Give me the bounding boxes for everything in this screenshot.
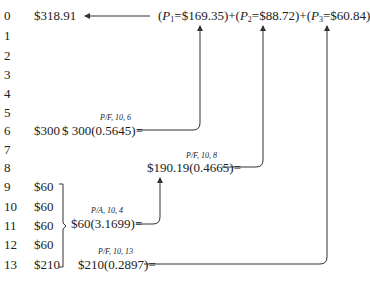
year-label: 10 bbox=[4, 200, 18, 214]
cash-flow: $60 bbox=[34, 219, 54, 233]
year-label: 4 bbox=[4, 87, 18, 101]
factor-label: P/F, 10, 8 bbox=[186, 151, 217, 160]
annuity-bracket bbox=[59, 184, 66, 267]
year-label: 6 bbox=[4, 124, 18, 138]
year-label: 8 bbox=[4, 161, 18, 175]
present-worth-result: $318.91 bbox=[34, 9, 76, 23]
factor-label: P/F, 10, 13 bbox=[98, 247, 133, 256]
year-label: 11 bbox=[4, 219, 18, 233]
year-label: 12 bbox=[4, 238, 18, 252]
equation: $60(3.1699)= bbox=[71, 217, 142, 231]
year-label: 7 bbox=[4, 143, 18, 157]
cash-flow: $60 bbox=[34, 200, 54, 214]
p2-arrow bbox=[222, 26, 263, 167]
equation: $210(0.2897)= bbox=[78, 258, 156, 272]
year-label: 5 bbox=[4, 106, 18, 120]
year-label: 13 bbox=[4, 258, 18, 272]
factor-label: P/F, 10, 6 bbox=[100, 113, 131, 122]
cash-flow: $60 bbox=[34, 180, 54, 194]
year-label: 2 bbox=[4, 49, 18, 63]
cash-flow: $300 bbox=[34, 124, 60, 138]
year-label: 9 bbox=[4, 180, 18, 194]
factor-label: P/A, 10, 4 bbox=[91, 206, 123, 215]
p3-arrow bbox=[144, 26, 327, 264]
year-label: 3 bbox=[4, 68, 18, 82]
cash-flow: $60 bbox=[34, 238, 54, 252]
year-label: 1 bbox=[4, 29, 18, 43]
p1-arrow bbox=[137, 26, 200, 130]
equation: $ 300(0.5645)= bbox=[62, 124, 143, 138]
year-label: 0 bbox=[4, 9, 18, 23]
cash-flow: $210 bbox=[34, 258, 60, 272]
equation: $190.19(0.4665)= bbox=[147, 161, 241, 175]
sum-expression: (P1=$169.35)+(P2=$88.72)+(P3=$60.84) bbox=[158, 9, 370, 27]
